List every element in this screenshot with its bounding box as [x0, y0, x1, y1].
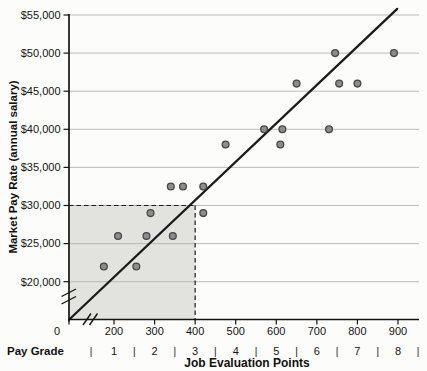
data-point: [133, 263, 140, 270]
x-tick-label: 900: [389, 325, 407, 337]
data-point: [147, 210, 154, 217]
x-tick-label: 700: [308, 325, 326, 337]
y-tick-label: $50,000: [21, 47, 61, 59]
x-tick-label: 300: [145, 325, 163, 337]
wage-curve-chart: $20,000$25,000$30,000$35,000$40,000$45,0…: [0, 0, 427, 371]
data-point: [200, 183, 207, 190]
pay-grade-separator: |: [214, 346, 217, 357]
data-point: [180, 183, 187, 190]
x-origin-label: 0: [54, 325, 60, 337]
pay-grade-separator: |: [376, 346, 379, 357]
data-point: [143, 233, 150, 240]
trend-line: [70, 9, 397, 319]
pay-grade-number: 7: [354, 345, 360, 357]
data-point: [277, 141, 284, 148]
data-point: [391, 50, 398, 57]
data-point: [100, 263, 107, 270]
x-tick-label: 800: [348, 325, 366, 337]
pay-grade-separator: |: [90, 346, 93, 357]
pay-grade-separator: |: [133, 346, 136, 357]
pay-grade-label: Pay Grade: [7, 345, 64, 357]
pay-grade-number: 2: [152, 345, 158, 357]
y-tick-label: $20,000: [21, 276, 61, 288]
data-point: [332, 50, 339, 57]
data-point: [354, 80, 361, 87]
x-tick-label: 600: [267, 325, 285, 337]
data-point: [222, 141, 229, 148]
data-point: [261, 126, 268, 133]
y-axis-title: Market Pay Rate (annual salary): [7, 80, 19, 253]
y-tick-label: $30,000: [21, 199, 61, 211]
pay-grade-number: 6: [314, 345, 320, 357]
data-point: [326, 126, 333, 133]
data-point: [293, 80, 300, 87]
pay-grade-separator: |: [417, 346, 420, 357]
y-tick-label: $25,000: [21, 237, 61, 249]
x-axis-title: Job Evaluation Points: [184, 356, 309, 370]
data-point: [115, 233, 122, 240]
x-tick-label: 200: [105, 325, 123, 337]
pay-grade-separator: |: [295, 346, 298, 357]
data-point: [167, 183, 174, 190]
x-tick-label: 500: [227, 325, 245, 337]
x-tick-label: 400: [186, 325, 204, 337]
y-tick-label: $40,000: [21, 123, 61, 135]
data-point: [169, 233, 176, 240]
y-tick-label: $55,000: [21, 9, 61, 21]
pay-grade-number: 1: [111, 345, 117, 357]
pay-grade-number: 8: [395, 345, 401, 357]
wage-curve-figure: $20,000$25,000$30,000$35,000$40,000$45,0…: [0, 0, 427, 371]
y-tick-label: $35,000: [21, 161, 61, 173]
data-point: [279, 126, 286, 133]
pay-grade-separator: |: [336, 346, 339, 357]
pay-grade-separator: |: [255, 346, 258, 357]
data-point: [336, 80, 343, 87]
data-point: [200, 210, 207, 217]
pay-grade-separator: |: [174, 346, 177, 357]
y-tick-label: $45,000: [21, 85, 61, 97]
